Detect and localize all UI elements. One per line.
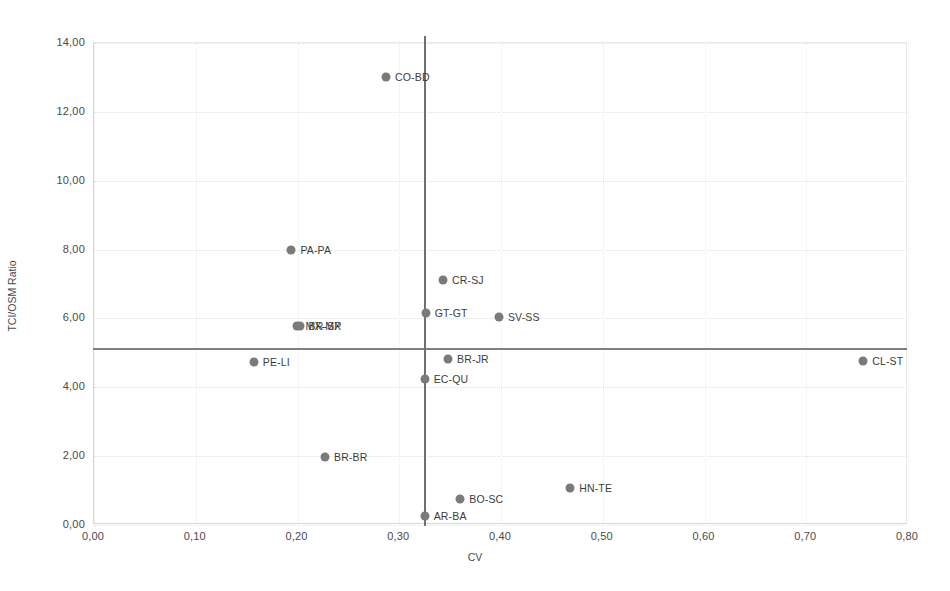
data-point[interactable] — [420, 374, 429, 383]
gridline-vertical — [298, 43, 299, 523]
gridline-horizontal — [94, 112, 906, 113]
x-tick-label: 0,70 — [775, 530, 835, 542]
data-point-label: AR-BA — [434, 510, 467, 522]
x-tick-label: 0,00 — [63, 530, 123, 542]
data-point[interactable] — [444, 355, 453, 364]
data-point-label: BR-JR — [457, 353, 489, 365]
gridline-horizontal — [94, 456, 906, 457]
data-point[interactable] — [249, 358, 258, 367]
data-point-label: HN-TE — [579, 482, 612, 494]
data-point[interactable] — [566, 483, 575, 492]
data-point[interactable] — [420, 512, 429, 521]
data-point[interactable] — [295, 322, 304, 331]
gridline-vertical — [705, 43, 706, 523]
data-point-label: SV-SS — [508, 311, 540, 323]
data-point[interactable] — [859, 357, 868, 366]
data-point-label: PA-PA — [300, 244, 331, 256]
data-point-label: EC-QU — [434, 373, 469, 385]
gridline-vertical — [94, 43, 95, 523]
gridline-vertical — [196, 43, 197, 523]
plot-area — [93, 42, 907, 524]
data-point-label: BO-SC — [469, 493, 503, 505]
x-axis-title: CV — [0, 551, 950, 563]
x-tick-label: 0,30 — [368, 530, 428, 542]
x-tick-label: 0,10 — [165, 530, 225, 542]
horizontal-reference-line — [93, 348, 907, 350]
gridline-horizontal — [94, 525, 906, 526]
gridline-horizontal — [94, 387, 906, 388]
x-tick-label: 0,80 — [877, 530, 937, 542]
y-axis-title: TCI/OSM Ratio — [6, 260, 18, 331]
vertical-reference-line — [424, 36, 426, 526]
data-point[interactable] — [287, 246, 296, 255]
gridline-vertical — [603, 43, 604, 523]
data-point-label: BR-SP — [309, 320, 342, 332]
gridline-horizontal — [94, 181, 906, 182]
data-point-label: CR-SJ — [452, 274, 484, 286]
scatter-chart: 0,002,004,006,008,0010,0012,0014,00 0,00… — [0, 0, 950, 591]
data-point-label: PE-LI — [263, 356, 290, 368]
data-point[interactable] — [421, 309, 430, 318]
data-point-label: BR-BR — [334, 451, 367, 463]
data-point[interactable] — [382, 73, 391, 82]
gridline-horizontal — [94, 43, 906, 44]
data-point-label: CO-BD — [395, 71, 430, 83]
data-point[interactable] — [494, 312, 503, 321]
gridline-vertical — [908, 43, 909, 523]
data-point-label: GT-GT — [435, 307, 468, 319]
gridline-vertical — [806, 43, 807, 523]
data-point[interactable] — [320, 452, 329, 461]
data-point[interactable] — [439, 276, 448, 285]
data-point-label: CL-ST — [872, 355, 903, 367]
gridline-vertical — [399, 43, 400, 523]
gridline-horizontal — [94, 250, 906, 251]
x-tick-label: 0,20 — [267, 530, 327, 542]
y-axis-title-wrap: TCI/OSM Ratio — [10, 0, 44, 591]
x-tick-label: 0,60 — [674, 530, 734, 542]
x-tick-label: 0,50 — [572, 530, 632, 542]
data-point[interactable] — [456, 495, 465, 504]
x-tick-label: 0,40 — [470, 530, 530, 542]
gridline-vertical — [501, 43, 502, 523]
